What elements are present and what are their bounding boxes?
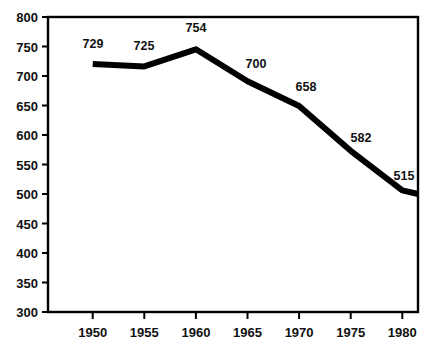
y-tick-label-600: 600 [16,128,38,143]
data-label-1965: 700 [246,57,267,71]
data-label-1955: 725 [134,39,155,53]
y-tick-label-500: 500 [16,187,38,202]
y-tick-label-350: 350 [16,276,38,291]
x-tick-label-1965: 1965 [233,325,262,340]
y-tick-label-650: 650 [16,99,38,114]
data-label-1970: 658 [296,80,317,94]
chart-page: 800 750 700 650 600 550 500 450 400 350 … [0,0,434,356]
y-tick-label-450: 450 [16,217,38,232]
x-tick-label-1955: 1955 [130,325,159,340]
data-label-1980: 515 [394,169,415,183]
data-label-1950: 729 [83,37,104,51]
y-tick-label-750: 750 [16,40,38,55]
y-tick-label-700: 700 [16,69,38,84]
x-tick-label-1980: 1980 [388,325,417,340]
line-chart: 800 750 700 650 600 550 500 450 400 350 … [0,0,434,356]
x-tick-label-1970: 1970 [285,325,314,340]
y-tick-label-800: 800 [16,10,38,25]
x-tick-label-1975: 1975 [336,325,365,340]
y-tick-label-400: 400 [16,246,38,261]
data-label-1960: 754 [186,21,207,35]
x-tick-label-1960: 1960 [181,325,210,340]
y-tick-label-550: 550 [16,158,38,173]
chart-background [0,0,434,356]
data-label-1975: 582 [351,131,372,145]
x-tick-label-1950: 1950 [78,325,107,340]
y-tick-label-300: 300 [16,305,38,320]
